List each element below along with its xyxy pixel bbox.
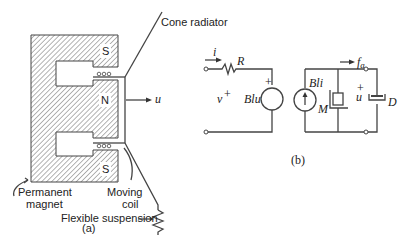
cone-radiator-label: Cone radiator	[161, 16, 228, 28]
electrical-circuit: i R + Blu v +	[204, 45, 283, 134]
current-label: i	[213, 45, 216, 59]
mass-element	[333, 93, 343, 105]
velocity-label: u	[155, 92, 161, 106]
voltage-sign: +	[224, 87, 231, 101]
figure-b: i R + Blu v + Bli M	[204, 45, 397, 167]
source-plus: +	[265, 75, 272, 89]
coil-label-1: Moving	[107, 186, 142, 198]
coil-label-2: coil	[122, 198, 139, 210]
magnet-label-1: Permanent	[18, 186, 72, 198]
figure-a-caption: (a)	[82, 222, 95, 234]
figure-b-caption: (b)	[291, 153, 305, 167]
mech-velocity-sign: +	[357, 81, 364, 95]
voltage-source-blu	[261, 88, 283, 110]
magnet-label-2: magnet	[26, 198, 63, 210]
loudspeaker-figure: S N S Cone radiator u	[0, 0, 401, 235]
voltage-label: v	[217, 92, 223, 106]
suspension-label: Flexible suspension	[61, 212, 158, 224]
force-label: fa	[357, 55, 365, 70]
pole-bottom-label: S	[102, 163, 109, 175]
velocity-arrow: u	[126, 92, 161, 106]
pole-middle-label: N	[101, 94, 109, 106]
cone-radiator	[125, 12, 162, 77]
mass-label: M	[317, 102, 329, 116]
damper-label: D	[387, 95, 397, 109]
resistor-label: R	[236, 54, 245, 68]
figure-a: S N S Cone radiator u	[14, 12, 228, 235]
bli-label: Bli	[309, 76, 323, 90]
coil-leader	[124, 148, 132, 180]
pole-top-label: S	[102, 45, 109, 57]
source-label: Blu	[244, 92, 261, 106]
mechanical-circuit: Bli M D u + fa	[294, 55, 397, 134]
